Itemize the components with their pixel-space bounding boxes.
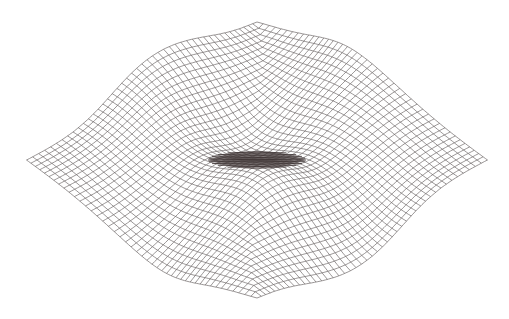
mesh-line <box>27 22 258 160</box>
mesh-line <box>103 104 328 279</box>
mesh-line <box>248 25 475 166</box>
mesh-line <box>185 109 422 281</box>
mesh-line <box>45 150 271 292</box>
mesh-line <box>257 160 488 298</box>
mesh-line <box>176 99 411 278</box>
mesh-line <box>132 73 362 264</box>
mesh-line <box>103 42 338 221</box>
wireframe-surface <box>0 0 509 319</box>
mesh-line <box>257 22 488 160</box>
mesh-line <box>91 39 328 211</box>
mesh-line <box>39 154 266 295</box>
mesh-line <box>244 27 470 170</box>
mesh-line <box>40 27 275 170</box>
mesh-line <box>239 150 474 292</box>
dense-core-lens <box>208 151 306 169</box>
wireframe-figure <box>0 0 509 319</box>
mesh-line <box>27 160 258 298</box>
mesh-line <box>187 41 412 216</box>
mesh-line <box>153 56 383 247</box>
